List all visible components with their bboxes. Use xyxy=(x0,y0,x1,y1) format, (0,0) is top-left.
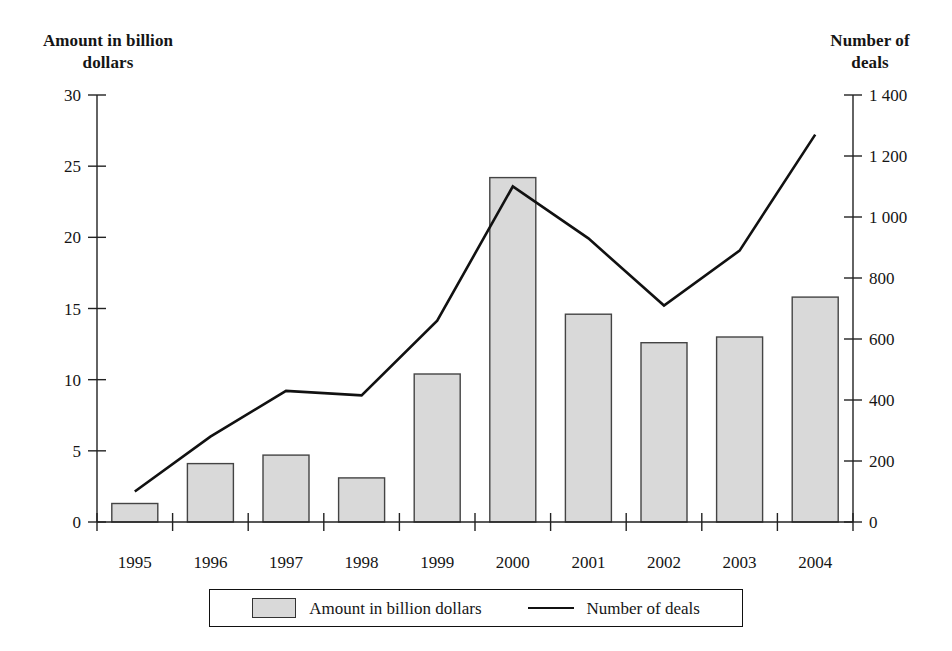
bar-2004 xyxy=(792,297,838,522)
x-tick-label-2000: 2000 xyxy=(496,554,530,571)
left-tick-label-25: 25 xyxy=(64,158,81,175)
bar-2003 xyxy=(717,337,763,522)
legend-entry-amount: Amount in billion dollars xyxy=(252,598,481,618)
left-tick-label-5: 5 xyxy=(73,442,82,459)
deals-line xyxy=(135,135,815,492)
left-tick-label-30: 30 xyxy=(64,87,81,104)
bar-2000 xyxy=(490,178,536,522)
legend-entry-deals: Number of deals xyxy=(528,600,700,617)
bar-1997 xyxy=(263,455,309,522)
right-tick-label-1200: 1 200 xyxy=(869,148,907,165)
x-tick-label-2002: 2002 xyxy=(647,554,681,571)
x-tick-label-1997: 1997 xyxy=(269,554,303,571)
bar-2001 xyxy=(565,314,611,522)
bars-group xyxy=(112,178,838,522)
legend-line-swatch-icon xyxy=(528,607,574,609)
chart-legend: Amount in billion dollars Number of deal… xyxy=(209,589,743,627)
left-tick-label-15: 15 xyxy=(64,300,81,317)
bar-2002 xyxy=(641,343,687,522)
left-tick-label-10: 10 xyxy=(64,371,81,388)
bar-1996 xyxy=(187,464,233,522)
right-tick-label-600: 600 xyxy=(869,331,895,348)
deals-line-path xyxy=(135,135,815,492)
chart-root: Amount in billion dollars Number of deal… xyxy=(0,0,952,651)
x-tick-label-1998: 1998 xyxy=(345,554,379,571)
right-tick-label-1000: 1 000 xyxy=(869,209,907,226)
legend-label-deals: Number of deals xyxy=(587,600,700,617)
right-tick-label-400: 400 xyxy=(869,392,895,409)
bar-1998 xyxy=(339,478,385,522)
x-tick-label-2003: 2003 xyxy=(723,554,757,571)
legend-bar-swatch-icon xyxy=(252,598,296,618)
right-tick-label-1400: 1 400 xyxy=(869,87,907,104)
x-tick-label-1995: 1995 xyxy=(118,554,152,571)
x-tick-label-2004: 2004 xyxy=(798,554,832,571)
right-tick-label-0: 0 xyxy=(869,514,878,531)
x-tick-label-1996: 1996 xyxy=(193,554,227,571)
legend-label-amount: Amount in billion dollars xyxy=(309,600,481,617)
bar-1999 xyxy=(414,374,460,522)
x-tick-label-1999: 1999 xyxy=(420,554,454,571)
bar-1995 xyxy=(112,504,158,523)
right-tick-label-800: 800 xyxy=(869,270,895,287)
left-tick-label-0: 0 xyxy=(73,514,82,531)
left-tick-label-20: 20 xyxy=(64,229,81,246)
x-tick-label-2001: 2001 xyxy=(571,554,605,571)
right-tick-label-200: 200 xyxy=(869,453,895,470)
